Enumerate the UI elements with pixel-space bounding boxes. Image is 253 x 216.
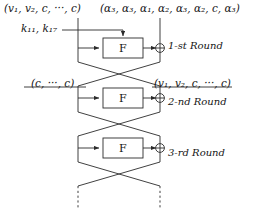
round-2-label: 2-nd Round (168, 97, 227, 107)
top-left-state-label: (v₁, v₂, c, ···, c) (4, 3, 81, 14)
crossover-final (78, 162, 160, 186)
key-injection-line (62, 30, 123, 36)
round-1-label: 1-st Round (168, 41, 223, 51)
round-1-f-label: F (119, 42, 127, 55)
crossover-2-3 (78, 112, 160, 136)
round-3-label: 3-rd Round (168, 148, 225, 158)
round-2-left-state-label: (c, ···, c) (31, 78, 74, 89)
round-keys-label: k₁₁, k₁₇ (21, 23, 57, 34)
top-right-state-label: (α₃, α₃, α₁, α₂, α₃, α₂, c, α₃) (100, 3, 240, 14)
dashed-continuation (78, 186, 160, 210)
crossover-1-2 (78, 62, 160, 86)
round-2-right-state-label: (v₁, v₂, c, ···, c) (154, 78, 231, 89)
round-2-f-label: F (119, 92, 127, 105)
round-3-f-label: F (119, 142, 127, 155)
